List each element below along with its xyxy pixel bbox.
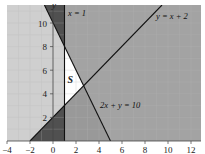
plot-area [7, 5, 201, 141]
x-ticks [7, 141, 191, 144]
region-label-s: S [68, 74, 74, 85]
y-tick-label: 2 [43, 113, 48, 123]
y-axis-label: y [51, 0, 56, 10]
x-tick-label: 8 [143, 145, 148, 154]
y-tick-label: 10 [38, 19, 48, 29]
x-tick-label: 4 [97, 145, 102, 154]
x-tick-label: 0 [51, 145, 56, 154]
y-tick-label: 6 [43, 66, 48, 76]
x-tick-label: −4 [2, 145, 12, 154]
x-tick-label: 10 [164, 145, 174, 154]
x-tick-label: −2 [25, 145, 35, 154]
x-tick-labels: −4 −2 0 2 4 6 8 10 12 [2, 145, 195, 154]
x-tick-label: 6 [120, 145, 125, 154]
inequality-region-chart: −4 −2 0 2 4 6 8 10 12 2 4 6 8 10 y x = 1… [0, 0, 205, 154]
y-tick-label: 4 [43, 89, 48, 99]
x-tick-label: 12 [187, 145, 196, 154]
y-tick-label: 8 [43, 42, 48, 52]
label-x-equals-1: x = 1 [67, 8, 86, 18]
label-2x-plus-y-equals-10: 2x + y = 10 [100, 100, 141, 110]
label-y-equals-x-plus-2: y = x + 2 [155, 11, 189, 21]
x-tick-label: 2 [74, 145, 79, 154]
